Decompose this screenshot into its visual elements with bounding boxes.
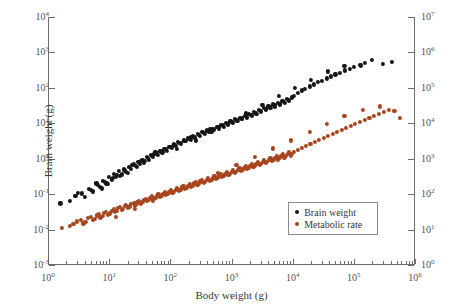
x-tick-minor xyxy=(152,261,153,264)
data-point-metab xyxy=(325,122,329,126)
x-tick-label: 106 xyxy=(408,273,422,283)
data-point-metab xyxy=(203,180,207,184)
y-left-tick-label: 10-2 xyxy=(33,225,49,235)
legend-marker-icon xyxy=(295,222,299,226)
x-tick-minor xyxy=(340,261,341,264)
data-point-metab xyxy=(339,128,343,132)
legend-marker-icon xyxy=(295,210,299,214)
y-left-tick-label: 103 xyxy=(36,47,50,57)
data-point-metab xyxy=(308,130,312,134)
data-point-metab xyxy=(234,170,238,174)
legend-label: Metabolic rate xyxy=(304,219,362,230)
data-point-brain xyxy=(293,86,297,90)
y-right-tick-label: 104 xyxy=(421,118,435,128)
y-right-tick-major xyxy=(408,159,414,160)
data-point-brain xyxy=(125,171,129,175)
x-tick-minor xyxy=(348,261,349,264)
data-point-metab xyxy=(253,164,257,168)
x-tick-minor xyxy=(261,261,262,264)
x-tick-minor xyxy=(397,261,398,264)
data-point-metab xyxy=(240,168,244,172)
data-point-metab xyxy=(361,108,365,112)
x-tick-minor xyxy=(287,261,288,264)
x-tick-minor xyxy=(283,261,284,264)
y-left-tick-label: 102 xyxy=(36,83,50,93)
data-point-metab xyxy=(132,207,136,211)
x-tick-minor xyxy=(218,261,219,264)
x-tick-minor xyxy=(329,261,330,264)
data-point-brain xyxy=(134,165,138,169)
legend-item: Brain weight xyxy=(295,206,372,218)
data-point-brain xyxy=(111,176,115,180)
y-left-tick-major xyxy=(49,194,55,195)
data-point-metab xyxy=(387,108,391,112)
x-tick-minor xyxy=(226,261,227,264)
data-point-brain xyxy=(329,74,333,78)
x-tick-minor xyxy=(161,261,162,264)
data-point-brain xyxy=(175,147,179,151)
data-point-metab xyxy=(382,110,386,114)
data-point-brain xyxy=(359,63,363,67)
data-point-metab xyxy=(140,200,144,204)
data-point-metab xyxy=(398,115,402,119)
data-point-brain xyxy=(106,182,110,186)
data-point-metab xyxy=(115,209,119,213)
x-tick-minor xyxy=(189,261,190,264)
x-tick-minor xyxy=(351,261,352,264)
data-point-metab xyxy=(278,156,282,160)
x-tick-minor xyxy=(290,261,291,264)
x-tick-minor xyxy=(100,261,101,264)
y-left-tick-label: 100 xyxy=(36,154,50,164)
y-right-tick-label: 100 xyxy=(421,260,435,270)
y-left-tick-label: 104 xyxy=(36,12,50,22)
y-left-tick-label: 101 xyxy=(36,118,50,128)
x-axis-line xyxy=(48,264,415,265)
data-point-brain xyxy=(333,72,337,76)
data-point-brain xyxy=(343,68,347,72)
data-point-metab xyxy=(83,220,87,224)
y-right-tick-label: 105 xyxy=(421,83,435,93)
data-point-brain xyxy=(58,201,62,205)
y-left-tick-label: 10-1 xyxy=(33,189,49,199)
data-point-brain xyxy=(309,78,313,82)
data-point-metab xyxy=(326,134,330,138)
y-left-tick-major xyxy=(49,265,55,266)
data-point-metab xyxy=(134,202,138,206)
data-point-metab xyxy=(317,138,321,142)
data-point-metab xyxy=(372,114,376,118)
legend-label: Brain weight xyxy=(304,207,356,218)
data-point-metab xyxy=(342,114,346,118)
data-point-brain xyxy=(118,174,122,178)
x-tick-minor xyxy=(372,261,373,264)
x-tick-minor xyxy=(383,261,384,264)
data-point-brain xyxy=(100,186,104,190)
data-point-metab xyxy=(151,198,155,202)
data-point-metab xyxy=(290,152,294,156)
y-right-tick-label: 101 xyxy=(421,225,435,235)
data-point-brain xyxy=(342,64,346,68)
data-point-metab xyxy=(377,112,381,116)
data-point-metab xyxy=(184,186,188,190)
x-tick-label: 104 xyxy=(286,273,300,283)
x-tick-minor xyxy=(85,261,86,264)
data-point-metab xyxy=(160,194,164,198)
data-point-metab xyxy=(60,226,64,230)
x-tick-minor xyxy=(207,261,208,264)
x-tick-minor xyxy=(77,261,78,264)
data-point-metab xyxy=(358,120,362,124)
x-tick-minor xyxy=(213,261,214,264)
data-point-metab xyxy=(191,184,195,188)
x-tick-minor xyxy=(274,261,275,264)
data-point-metab xyxy=(265,160,269,164)
data-point-metab xyxy=(308,142,312,146)
legend-box: Brain weightMetabolic rate xyxy=(288,202,378,235)
x-tick-minor xyxy=(200,261,201,264)
data-point-metab xyxy=(271,146,275,150)
x-tick-minor xyxy=(279,261,280,264)
x-tick-label: 101 xyxy=(102,273,116,283)
data-point-metab xyxy=(284,154,288,158)
x-tick-major xyxy=(109,259,110,264)
x-axis-title: Body weight (g) xyxy=(195,289,267,301)
x-tick-minor xyxy=(96,261,97,264)
data-point-metab xyxy=(353,122,357,126)
